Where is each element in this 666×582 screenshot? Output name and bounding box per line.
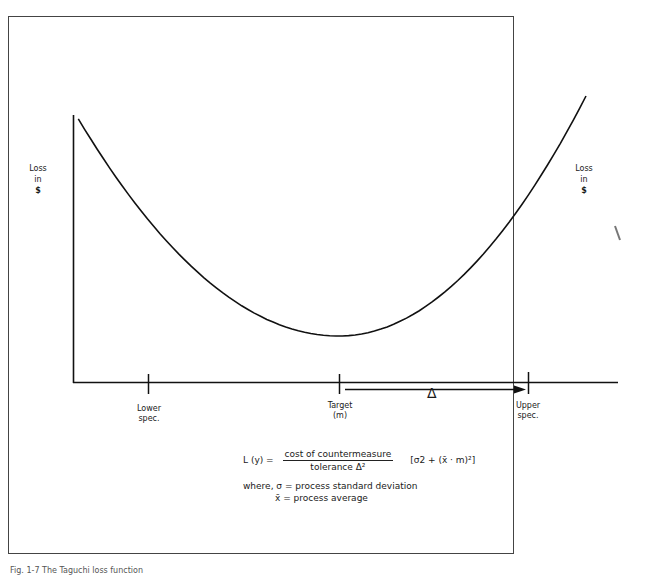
tick-label-line: Target <box>317 401 363 411</box>
y-label-left-line1: Loss <box>23 163 53 174</box>
loss-curve <box>78 96 586 336</box>
y-label-right-line3: $ <box>569 185 599 196</box>
formula-numerator: cost of countermeasure <box>283 448 394 461</box>
tick-label-upper-spec: Upper spec. <box>505 401 551 421</box>
y-label-left-line3: $ <box>23 185 53 196</box>
y-label-right-line1: Loss <box>569 163 599 174</box>
y-label-left-line2: in <box>23 174 53 185</box>
stray-mark <box>615 226 620 240</box>
tick-label-target: Target (m) <box>317 401 363 421</box>
tick-label-lower-spec: Lower spec. <box>126 404 172 424</box>
y-axis-label-left: Loss in $ <box>23 163 53 196</box>
y-axis-label-right: Loss in $ <box>569 163 599 196</box>
tick-label-line: spec. <box>126 414 172 424</box>
tick-label-line: Upper <box>505 401 551 411</box>
formula-where-line1: where, σ = process standard deviation <box>243 480 417 492</box>
delta-label: Δ <box>427 385 437 401</box>
formula-denominator: tolerance Δ² <box>283 461 394 473</box>
tick-label-line: Lower <box>126 404 172 414</box>
formula-lhs: L (y) = <box>243 455 274 465</box>
loss-formula: L (y) = cost of countermeasure tolerance… <box>243 448 475 473</box>
formula-where-line2: x̄ = process average <box>275 492 368 504</box>
delta-arrowhead <box>514 386 526 394</box>
figure-caption: Fig. 1-7 The Taguchi loss function <box>10 566 143 575</box>
formula-fraction: cost of countermeasure tolerance Δ² <box>283 448 394 473</box>
y-label-right-line2: in <box>569 174 599 185</box>
tick-label-line: (m) <box>317 411 363 421</box>
formula-bracket: [σ2 + (x̄ · m)²] <box>410 455 475 465</box>
tick-label-line: spec. <box>505 411 551 421</box>
